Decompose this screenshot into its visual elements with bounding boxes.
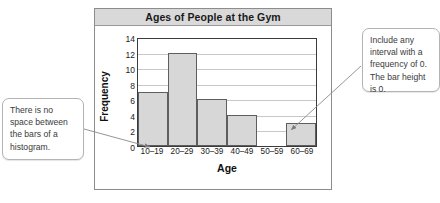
histogram-bar-10-19 [138, 92, 168, 147]
y-axis-tick-label: 8 [130, 81, 135, 91]
y-axis-title: Frequency [97, 48, 111, 144]
plot-area: 02468101214 [137, 38, 317, 147]
bar-slot [227, 39, 257, 146]
callout-right-text: Include any interval with a frequency of… [370, 35, 427, 94]
histogram-bar-60-69 [286, 123, 316, 146]
callout-left-text: There is no space between the bars of a … [10, 105, 68, 152]
x-axis-tick-label: 40–49 [227, 147, 257, 156]
bar-slot [286, 39, 316, 146]
x-axis-tick-label: 30–39 [197, 147, 227, 156]
histogram-bar-40-49 [227, 115, 257, 146]
y-axis-tick-label: 14 [126, 34, 135, 44]
chart-title-bar: Ages of People at the Gym [95, 9, 331, 26]
callout-no-space-between-bars: There is no space between the bars of a … [2, 98, 84, 160]
bar-series [138, 39, 316, 146]
histogram-bar-20-29 [168, 53, 198, 146]
bar-slot [138, 39, 168, 146]
y-axis-tick-label: 0 [130, 143, 135, 153]
x-axis-tick-labels: 10–1920–2930–3940–4950–5960–69 [137, 147, 317, 156]
y-axis-tick-label: 10 [126, 65, 135, 75]
bar-slot [168, 39, 198, 146]
y-axis-tick-label: 6 [130, 96, 135, 106]
histogram-bar-30-39 [197, 99, 227, 146]
x-axis-tick-label: 10–19 [137, 147, 167, 156]
y-axis-title-label: Frequency [99, 71, 110, 122]
bar-slot [257, 39, 287, 146]
callout-zero-frequency-interval: Include any interval with a frequency of… [362, 28, 440, 92]
bar-slot [197, 39, 227, 146]
y-axis-tick-label: 12 [126, 50, 135, 60]
histogram-panel: Ages of People at the Gym Frequency 0246… [94, 8, 332, 190]
x-axis-tick-label: 20–29 [167, 147, 197, 156]
page-title: Ages of People at the Gym [145, 11, 281, 23]
y-axis-tick-label: 2 [130, 127, 135, 137]
plot-wrapper: Frequency 02468101214 10–1920–2930–3940–… [95, 26, 331, 189]
x-axis-tick-label: 50–59 [257, 147, 287, 156]
x-axis-title: Age [137, 162, 317, 174]
x-axis-tick-label: 60–69 [287, 147, 317, 156]
y-axis-tick-label: 4 [130, 112, 135, 122]
